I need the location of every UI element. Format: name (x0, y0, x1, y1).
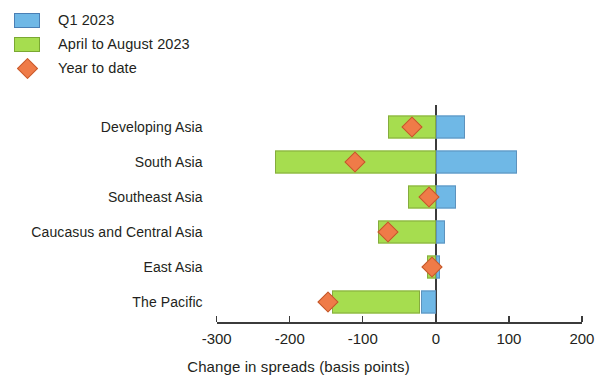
bar-q1-2023 (436, 115, 465, 138)
x-axis-line (217, 322, 582, 324)
x-axis-tick-label: 0 (432, 330, 440, 347)
chart-plot-area: Change in spreads (basis points) -300-20… (0, 0, 597, 381)
category-label: Southeast Asia (108, 189, 203, 205)
x-axis-tick-label: -200 (275, 330, 305, 347)
x-axis-tick-label: -100 (348, 330, 378, 347)
bar-april-to-august-2023 (332, 290, 420, 313)
x-axis-tick (362, 316, 363, 322)
x-axis-tick-label: -300 (202, 330, 232, 347)
x-axis-tick (289, 316, 290, 322)
x-axis-tick (216, 316, 217, 322)
bar-q1-2023 (436, 220, 445, 243)
x-axis-tick (581, 316, 582, 322)
category-label: Caucasus and Central Asia (31, 224, 202, 240)
x-axis-tick-label: 100 (496, 330, 521, 347)
bar-q1-2023 (436, 150, 517, 173)
x-axis-tick (508, 316, 509, 322)
x-axis-title: Change in spreads (basis points) (0, 358, 597, 375)
x-axis-tick-label: 200 (569, 330, 594, 347)
bar-q1-2023 (421, 290, 436, 313)
x-axis-tick (435, 316, 436, 322)
category-label: The Pacific (132, 294, 202, 310)
category-label: South Asia (135, 154, 203, 170)
category-label: East Asia (143, 259, 202, 275)
category-label: Developing Asia (101, 119, 203, 135)
